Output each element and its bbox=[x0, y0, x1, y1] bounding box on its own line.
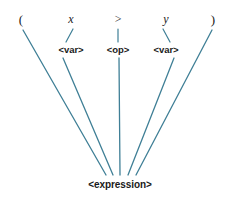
parse-tree-edges-layer bbox=[0, 0, 231, 197]
token-label-var-y: y bbox=[163, 13, 168, 25]
token-label-op-gt: > bbox=[114, 13, 122, 25]
stub-edge-var-x-to-var-left bbox=[66, 29, 73, 42]
nonterminal-label-var-right: <var> bbox=[154, 45, 179, 55]
root-label-expression: <expression> bbox=[88, 180, 151, 190]
stub-edge-var-y-to-var-right bbox=[163, 29, 170, 42]
tree-edge-op-middle-to-expression bbox=[119, 58, 120, 175]
token-label-var-x: x bbox=[68, 13, 73, 25]
token-label-rparen: ) bbox=[211, 13, 215, 26]
stub-edges-group bbox=[66, 29, 170, 42]
parse-tree-diagram: (x>y)<var><op><var><expression> bbox=[0, 0, 231, 197]
token-label-lparen: ( bbox=[19, 13, 23, 26]
nonterminal-label-var-left: <var> bbox=[59, 45, 84, 55]
tree-edge-var-left-to-expression bbox=[63, 58, 113, 175]
nonterminal-label-op-middle: <op> bbox=[107, 45, 129, 55]
